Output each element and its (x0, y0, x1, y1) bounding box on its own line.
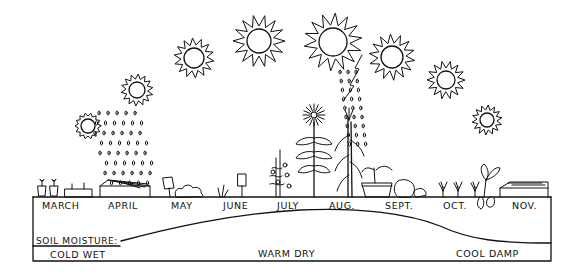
raindrop-icon (114, 161, 116, 165)
raindrop-icon (104, 121, 106, 125)
raindrop-icon (95, 121, 97, 125)
garden-diagram: MARCHAPRILMAYJUNEJULYAUG.SEPT.OCT.NOV. S… (0, 0, 581, 279)
sun-icon (480, 113, 494, 127)
sun-icon (381, 46, 403, 68)
tomato-icon (271, 170, 275, 174)
sun-icon (247, 29, 271, 53)
raindrop-icon (357, 88, 359, 92)
flower-pot-icon (38, 186, 46, 196)
sun-icon (437, 71, 455, 89)
raindrop-icon (127, 141, 129, 145)
raindrop-icon (104, 171, 106, 175)
raindrop-icon (363, 133, 365, 137)
raindrop-icon (344, 106, 346, 110)
corn-stalk-icon (348, 118, 352, 197)
seedling-icon (40, 179, 45, 186)
raindrop-icon (116, 111, 118, 115)
tomato-icon (276, 180, 280, 184)
raindrop-icon (134, 111, 136, 115)
tomato-icon (285, 173, 289, 177)
raindrop-icon (130, 131, 132, 135)
seedling-icon (471, 182, 479, 197)
seedling-icon (362, 166, 392, 183)
sun-icon (319, 28, 347, 56)
tomato-icon (287, 184, 291, 188)
sun-rays-icon (75, 113, 101, 138)
cabbage-icon (394, 180, 414, 197)
raindrop-icon (347, 70, 349, 74)
tomato-icon (283, 163, 287, 167)
month-label-april: APRIL (108, 201, 138, 211)
raindrop-icon (136, 141, 138, 145)
raindrop-icon (113, 121, 115, 125)
raindrop-icon (348, 79, 350, 83)
sunflower-petals-icon (303, 104, 325, 126)
raindrop-icon (135, 151, 137, 155)
cold-frame-icon (100, 180, 150, 197)
month-label-march: MARCH (42, 201, 80, 211)
harvest-basket-icon (362, 183, 392, 197)
raindrop-icon (353, 115, 355, 119)
raindrop-icon (118, 141, 120, 145)
squash-icon (414, 188, 426, 197)
raindrop-icon (339, 70, 341, 74)
raindrop-icon (132, 161, 134, 165)
month-label-may: MAY (171, 201, 193, 211)
seedling-icon (454, 182, 462, 197)
raindrop-icon (141, 161, 143, 165)
raindrop-icon (355, 133, 357, 137)
raindrop-icon (105, 161, 107, 165)
raindrop-icon (110, 181, 112, 185)
month-label-july: JULY (277, 201, 299, 211)
raindrop-icon (122, 171, 124, 175)
seedling-icon (52, 179, 57, 186)
month-label-aug: AUG. (329, 201, 355, 211)
raindrop-icon (126, 151, 128, 155)
raindrop-icon (144, 151, 146, 155)
flower-pot-icon (50, 186, 58, 196)
sun-icon (81, 119, 95, 133)
raindrop-icon (139, 131, 141, 135)
corn-leaves-icon (335, 108, 364, 191)
raindrop-icon (122, 121, 124, 125)
raindrop-icon (359, 97, 361, 101)
raindrop-icon (352, 106, 354, 110)
raindrop-icon (103, 131, 105, 135)
sun-rays-icon (233, 16, 285, 67)
raindrop-icon (109, 141, 111, 145)
raindrop-icon (108, 151, 110, 155)
sun-rays-icon (427, 62, 465, 99)
bush-icon (175, 185, 203, 197)
sun-icon (184, 48, 204, 68)
raindrop-icon (123, 161, 125, 165)
cold-frame-icon (500, 182, 548, 197)
month-label-sept: SEPT. (385, 201, 413, 211)
seedling-icon (218, 185, 228, 197)
raindrop-icon (361, 115, 363, 119)
raindrop-icon (149, 171, 151, 175)
soil-moisture-curve (121, 209, 551, 243)
sun-rays-icon (121, 74, 153, 106)
raindrop-icon (140, 121, 142, 125)
zone-cool-damp: COOL DAMP (456, 249, 519, 259)
sun-icon (129, 82, 145, 98)
raindrop-icon (340, 79, 342, 83)
raindrop-icon (112, 131, 114, 135)
garden-sign-icon (163, 177, 174, 197)
month-label-june: JUNE (223, 201, 248, 211)
raindrop-icon (94, 131, 96, 135)
raindrop-icon (354, 124, 356, 128)
raindrop-icon (131, 121, 133, 125)
sun-rays-icon (472, 105, 502, 135)
raindrop-icon (356, 79, 358, 83)
raindrop-icon (117, 151, 119, 155)
soil-moisture-label: SOIL MOISTURE: (36, 237, 118, 246)
raindrop-icon (360, 106, 362, 110)
raindrop-icon (99, 151, 101, 155)
zone-warm-dry: WARM DRY (258, 249, 315, 259)
raindrop-icon (351, 97, 353, 101)
raindrop-icon (131, 171, 133, 175)
month-label-nov: NOV. (512, 201, 537, 211)
lightning-icon (343, 55, 362, 101)
raindrop-icon (125, 111, 127, 115)
